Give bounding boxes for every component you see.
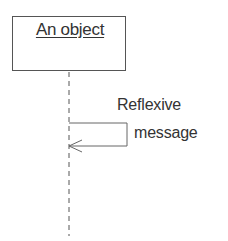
message-label-line2: message [134,124,198,142]
message-label-line1: Reflexive [117,96,181,114]
object-label: An object [13,20,127,40]
object-box: An object [12,16,126,71]
reflexive-message-path [69,123,127,146]
sequence-diagram: An object Reflexive message [0,0,228,241]
